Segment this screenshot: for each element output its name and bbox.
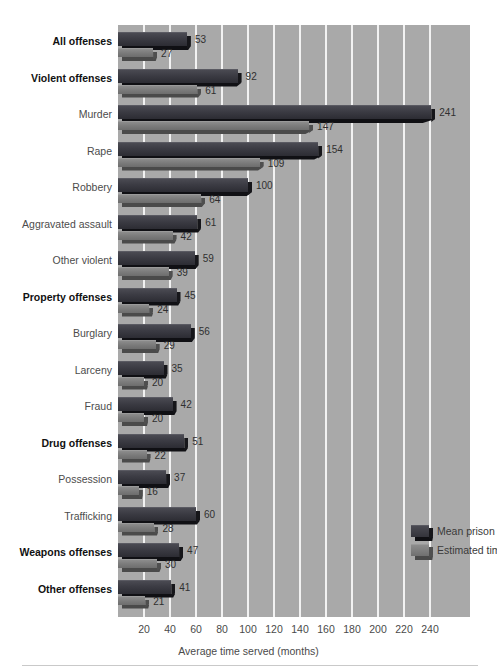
- category-label-robbery: Robbery: [0, 182, 112, 193]
- category-label-property-offenses: Property offenses: [0, 292, 112, 303]
- category-label-aggravated-assault: Aggravated assault: [0, 219, 112, 230]
- bar-mean-sentence: [118, 288, 177, 302]
- bar-value-label: 41: [179, 583, 190, 593]
- bar-estimated-time-served: [118, 231, 173, 240]
- bar-value-label: 60: [204, 510, 215, 520]
- bar-mean-sentence: [118, 324, 191, 338]
- category-axis-labels: All offensesViolent offensesMurderRapeRo…: [0, 25, 112, 617]
- bar-estimated-time-served: [118, 340, 156, 349]
- x-axis-title: Average time served (months): [0, 645, 497, 657]
- bar-estimated-time-served: [118, 304, 149, 313]
- x-tick-240: 240: [415, 624, 445, 635]
- bar-estimated-time-served: [118, 85, 197, 94]
- bar-value-label: 109: [268, 159, 285, 169]
- category-label-other-violent: Other violent: [0, 255, 112, 266]
- bar-mean-sentence: [118, 397, 173, 411]
- bar-mean-sentence: [118, 69, 238, 83]
- category-label-all-offenses: All offenses: [0, 36, 112, 47]
- bar-mean-sentence: [118, 215, 197, 229]
- bar-estimated-time-served: [118, 559, 157, 568]
- bar-estimated-time-served: [118, 194, 201, 203]
- bottom-divider: [22, 665, 478, 666]
- bar-mean-sentence: [118, 178, 248, 192]
- bar-value-label: 29: [164, 341, 175, 351]
- bar-mean-sentence: [118, 580, 171, 594]
- bar-value-label: 22: [155, 451, 166, 461]
- bar-value-label: 51: [192, 437, 203, 447]
- legend-swatch-dark-icon: [411, 525, 429, 537]
- bar-value-label: 20: [152, 378, 163, 388]
- category-label-larceny: Larceny: [0, 365, 112, 376]
- bar-value-label: 39: [177, 268, 188, 278]
- bar-value-label: 47: [187, 546, 198, 556]
- bar-estimated-time-served: [118, 523, 154, 532]
- bar-value-label: 30: [165, 560, 176, 570]
- bar-mean-sentence: [118, 543, 179, 557]
- bar-value-label: 241: [439, 108, 456, 118]
- bar-value-label: 64: [209, 195, 220, 205]
- bar-estimated-time-served: [118, 48, 153, 57]
- bar-estimated-time-served: [118, 267, 169, 276]
- chart-plot-area: 5327926124114715410910064614259394524562…: [118, 25, 470, 617]
- bar-value-label: 53: [195, 35, 206, 45]
- bar-value-label: 45: [185, 291, 196, 301]
- bar-mean-sentence: [118, 32, 187, 46]
- bar-value-label: 61: [205, 86, 216, 96]
- bar-mean-sentence: [118, 434, 184, 448]
- bar-value-label: 59: [203, 254, 214, 264]
- bar-value-label: 100: [256, 181, 273, 191]
- legend-label: Estimated time to be served in prison: [437, 544, 497, 556]
- bar-value-label: 56: [199, 327, 210, 337]
- bar-value-label: 42: [181, 232, 192, 242]
- bar-estimated-time-served: [118, 596, 145, 605]
- bar-estimated-time-served: [118, 377, 144, 386]
- bar-value-label: 20: [152, 414, 163, 424]
- bar-value-label: 24: [157, 305, 168, 315]
- bar-mean-sentence: [118, 142, 318, 156]
- bar-value-label: 35: [172, 364, 183, 374]
- bar-value-label: 27: [161, 49, 172, 59]
- bar-value-label: 42: [181, 400, 192, 410]
- category-label-drug-offenses: Drug offenses: [0, 438, 112, 449]
- legend-label: Mean prison sentence: [437, 525, 497, 537]
- bar-estimated-time-served: [118, 413, 144, 422]
- category-label-murder: Murder: [0, 109, 112, 120]
- bar-value-label: 28: [162, 524, 173, 534]
- bar-mean-sentence: [118, 470, 166, 484]
- bar-value-label: 21: [153, 597, 164, 607]
- category-label-trafficking: Trafficking: [0, 511, 112, 522]
- bar-mean-sentence: [118, 361, 164, 375]
- bar-value-label: 61: [205, 218, 216, 228]
- bar-estimated-time-served: [118, 158, 260, 167]
- category-label-rape: Rape: [0, 146, 112, 157]
- bar-value-label: 92: [246, 72, 257, 82]
- category-label-fraud: Fraud: [0, 401, 112, 412]
- bar-value-label: 16: [147, 487, 158, 497]
- bar-value-label: 147: [317, 122, 334, 132]
- bar-mean-sentence: [118, 251, 195, 265]
- bar-estimated-time-served: [118, 121, 309, 130]
- legend-swatch-light-icon: [411, 544, 429, 556]
- bar-mean-sentence: [118, 105, 431, 119]
- bar-value-label: 37: [174, 473, 185, 483]
- category-label-violent-offenses: Violent offenses: [0, 73, 112, 84]
- bar-mean-sentence: [118, 507, 196, 521]
- category-label-possession: Possession: [0, 474, 112, 485]
- bar-estimated-time-served: [118, 486, 139, 495]
- category-label-weapons-offenses: Weapons offenses: [0, 547, 112, 558]
- bar-estimated-time-served: [118, 450, 147, 459]
- bar-value-label: 154: [326, 145, 343, 155]
- category-label-burglary: Burglary: [0, 328, 112, 339]
- category-label-other-offenses: Other offenses: [0, 584, 112, 595]
